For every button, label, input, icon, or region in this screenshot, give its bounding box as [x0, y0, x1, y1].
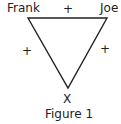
node-joe: Joe: [100, 2, 118, 14]
triangle-edges: [28, 18, 107, 88]
figure-caption: Figure 1: [45, 108, 93, 120]
edge-sign-frank-x: +: [22, 45, 32, 57]
edge-sign-joe-x: +: [100, 43, 110, 55]
node-x: X: [63, 93, 71, 105]
triangle-diagram: [0, 0, 121, 124]
node-frank: Frank: [7, 2, 40, 14]
edge-sign-frank-joe: +: [63, 3, 73, 15]
